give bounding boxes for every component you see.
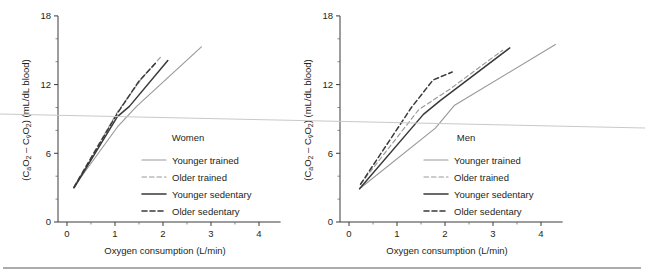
x-tick-label: 2 bbox=[442, 228, 447, 239]
figure-container: 06121801234WomenYounger trainedOlder tra… bbox=[0, 0, 645, 278]
panel-title-men: Men bbox=[457, 132, 475, 143]
x-tick-label: 0 bbox=[64, 228, 69, 239]
x-tick-label: 3 bbox=[208, 228, 213, 239]
y-tick-label: 12 bbox=[322, 79, 333, 90]
x-tick-label: 4 bbox=[538, 228, 543, 239]
legend-label-younger-trained: Younger trained bbox=[172, 155, 239, 166]
legend-label-older-sedentary: Older sedentary bbox=[454, 206, 522, 217]
x-tick-label: 0 bbox=[346, 228, 351, 239]
legend-label-younger-sedentary: Younger sedentary bbox=[454, 189, 534, 200]
legend-label-older-trained: Older trained bbox=[172, 172, 227, 183]
x-tick-label: 1 bbox=[394, 228, 399, 239]
y-tick-label: 12 bbox=[40, 79, 51, 90]
legend-label-older-sedentary: Older sedentary bbox=[172, 206, 240, 217]
x-tick-label: 2 bbox=[160, 228, 165, 239]
y-tick-label: 6 bbox=[46, 148, 51, 159]
legend-label-younger-sedentary: Younger sedentary bbox=[172, 189, 252, 200]
x-tick-label: 4 bbox=[256, 228, 261, 239]
y-tick-label: 0 bbox=[46, 216, 51, 227]
two-panel-line-chart: 06121801234WomenYounger trainedOlder tra… bbox=[0, 0, 645, 278]
panel-title-women: Women bbox=[172, 132, 205, 143]
y-axis-title: (CaO2 – Cv̄O2) (mL/dL blood) bbox=[20, 59, 32, 181]
y-tick-label: 6 bbox=[328, 148, 333, 159]
y-tick-label: 18 bbox=[322, 10, 333, 21]
legend-label-older-trained: Older trained bbox=[454, 172, 509, 183]
y-axis-title: (CaO2 – Cv̄O2) (mL/dL blood) bbox=[302, 59, 314, 181]
figure-background bbox=[0, 0, 645, 278]
x-axis-title: Oxygen consumption (L/min) bbox=[386, 245, 507, 256]
x-tick-label: 1 bbox=[112, 228, 117, 239]
legend-label-younger-trained: Younger trained bbox=[454, 155, 521, 166]
x-axis-title: Oxygen consumption (L/min) bbox=[104, 245, 225, 256]
y-tick-label: 0 bbox=[328, 216, 333, 227]
y-tick-label: 18 bbox=[40, 10, 51, 21]
x-tick-label: 3 bbox=[490, 228, 495, 239]
